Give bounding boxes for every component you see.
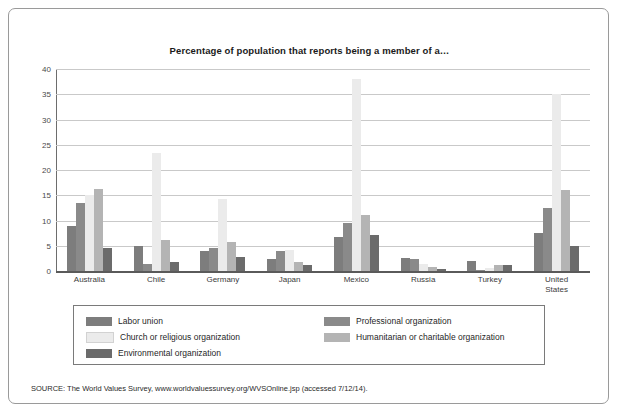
x-axis-category-label: Russia xyxy=(390,275,457,285)
bar[interactable] xyxy=(85,195,94,271)
bar-group xyxy=(457,69,524,271)
figure-panel: Percentage of population that reports be… xyxy=(8,8,609,404)
legend-swatch xyxy=(86,317,112,326)
plot-area xyxy=(56,69,590,271)
bar[interactable] xyxy=(543,208,552,271)
y-axis-tick-label: 30 xyxy=(21,115,51,124)
bar-group xyxy=(523,69,590,271)
chart-title: Percentage of population that reports be… xyxy=(9,45,609,56)
legend-swatch xyxy=(86,349,112,358)
x-axis-category-label: Germany xyxy=(190,275,257,285)
legend-item[interactable]: Professional organization xyxy=(324,313,504,329)
y-axis-tick-labels: 0510152025303540 xyxy=(17,69,51,271)
bar[interactable] xyxy=(334,237,343,271)
bar[interactable] xyxy=(285,250,294,271)
bar[interactable] xyxy=(561,190,570,271)
bar-group xyxy=(390,69,457,271)
y-axis-tick-label: 0 xyxy=(21,267,51,276)
bar[interactable] xyxy=(570,246,579,271)
bar[interactable] xyxy=(134,246,143,271)
legend-column-left: Labor unionChurch or religious organizat… xyxy=(86,313,240,361)
bar[interactable] xyxy=(209,248,218,271)
legend-swatch xyxy=(324,317,350,326)
legend-item[interactable]: Labor union xyxy=(86,313,240,329)
legend-label: Environmental organization xyxy=(118,348,221,358)
legend-item[interactable]: Church or religious organization xyxy=(86,329,240,345)
bar[interactable] xyxy=(534,233,543,271)
bar[interactable] xyxy=(227,242,236,271)
bar[interactable] xyxy=(467,261,476,271)
y-axis-tick-label: 25 xyxy=(21,140,51,149)
x-axis-category-label: Japan xyxy=(256,275,323,285)
x-axis-category-label: Australia xyxy=(56,275,123,285)
legend-label: Church or religious organization xyxy=(120,332,240,342)
legend-label: Professional organization xyxy=(356,316,451,326)
bar-group xyxy=(323,69,390,271)
bar[interactable] xyxy=(218,199,227,271)
y-axis-tick-label: 5 xyxy=(21,241,51,250)
legend-column-right: Professional organizationHumanitarian or… xyxy=(324,313,504,345)
x-axis-category-label: Turkey xyxy=(457,275,524,285)
legend-item[interactable]: Environmental organization xyxy=(86,345,240,361)
bar[interactable] xyxy=(103,248,112,271)
bar[interactable] xyxy=(410,259,419,271)
bar[interactable] xyxy=(267,259,276,271)
x-axis-category-label: Mexico xyxy=(323,275,390,285)
bar[interactable] xyxy=(276,251,285,271)
x-axis-line xyxy=(56,271,590,273)
bar[interactable] xyxy=(294,262,303,271)
bar[interactable] xyxy=(401,258,410,271)
bar[interactable] xyxy=(67,226,76,271)
legend: Labor unionChurch or religious organizat… xyxy=(73,305,545,365)
y-axis-tick-label: 15 xyxy=(21,191,51,200)
bar[interactable] xyxy=(76,203,85,271)
x-axis-category-label: UnitedStates xyxy=(523,275,590,294)
bar-group xyxy=(123,69,190,271)
bar[interactable] xyxy=(236,257,245,271)
bar[interactable] xyxy=(161,240,170,271)
bar[interactable] xyxy=(552,94,561,271)
bar-group xyxy=(56,69,123,271)
source-note: SOURCE: The World Values Survey, www.wor… xyxy=(31,384,368,393)
legend-label: Humanitarian or charitable organization xyxy=(356,332,504,342)
bar-group xyxy=(190,69,257,271)
bar[interactable] xyxy=(343,223,352,271)
bar[interactable] xyxy=(200,251,209,271)
bar-group xyxy=(256,69,323,271)
bar[interactable] xyxy=(94,189,103,271)
legend-swatch xyxy=(324,333,350,342)
bar[interactable] xyxy=(370,235,379,271)
y-axis-tick-label: 10 xyxy=(21,216,51,225)
legend-item[interactable]: Humanitarian or charitable organization xyxy=(324,329,504,345)
x-axis-category-label: Chile xyxy=(123,275,190,285)
y-axis-tick-label: 35 xyxy=(21,90,51,99)
bar[interactable] xyxy=(361,215,370,271)
bar[interactable] xyxy=(170,262,179,271)
legend-swatch xyxy=(86,332,114,343)
bar[interactable] xyxy=(152,153,161,271)
bar[interactable] xyxy=(352,79,361,271)
y-axis-tick-label: 40 xyxy=(21,65,51,74)
y-axis-tick-label: 20 xyxy=(21,166,51,175)
legend-label: Labor union xyxy=(118,316,163,326)
